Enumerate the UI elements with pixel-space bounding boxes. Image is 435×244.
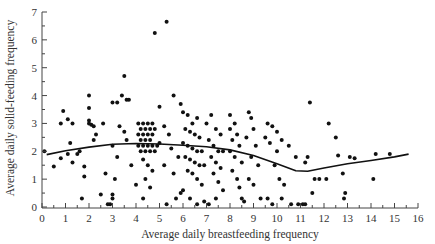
data-point (230, 138, 234, 142)
data-point (136, 121, 140, 125)
data-point (141, 197, 145, 201)
data-point (195, 116, 199, 120)
y-axis-ticks: 01234567 (32, 6, 48, 213)
data-point (270, 124, 274, 128)
data-point (118, 124, 122, 128)
data-point (198, 163, 202, 167)
x-tick-label: 7 (204, 212, 210, 224)
data-point (317, 177, 321, 181)
data-point (353, 156, 357, 160)
data-point (254, 144, 258, 148)
data-point (143, 127, 147, 131)
data-point (259, 197, 263, 201)
data-point (275, 130, 279, 134)
data-point (153, 149, 157, 153)
y-tick-label: 7 (32, 6, 38, 18)
data-point (240, 160, 244, 164)
data-point (66, 117, 70, 121)
data-point (80, 197, 84, 201)
data-point (68, 141, 72, 145)
data-point (148, 127, 152, 131)
data-point (148, 186, 152, 190)
data-point (165, 202, 169, 206)
x-tick-label: 4 (133, 212, 139, 224)
plot-area (42, 20, 408, 206)
data-point (101, 121, 105, 125)
data-point (270, 202, 274, 206)
data-point (188, 158, 192, 162)
data-point (280, 197, 284, 201)
data-point (190, 172, 194, 176)
data-point (342, 197, 346, 201)
data-point (129, 163, 133, 167)
data-point (249, 116, 253, 120)
data-point (230, 169, 234, 173)
x-axis-ticks: 012345678910111213141516 (39, 203, 424, 224)
data-point (348, 155, 352, 159)
data-point (308, 101, 312, 105)
data-point (371, 177, 375, 181)
data-point (306, 155, 310, 159)
data-point (82, 174, 86, 178)
data-point (198, 135, 202, 139)
data-point (66, 152, 70, 156)
data-point (247, 177, 251, 181)
data-point (61, 109, 65, 113)
data-point (266, 121, 270, 125)
data-point (115, 101, 119, 105)
data-point (202, 163, 206, 167)
data-point (214, 197, 218, 201)
data-point (111, 197, 115, 201)
data-point (324, 177, 328, 181)
data-point (162, 124, 166, 128)
data-point (242, 199, 246, 203)
data-point (122, 130, 126, 134)
data-point (111, 193, 115, 197)
data-point (141, 133, 145, 137)
data-point (205, 121, 209, 125)
data-point (209, 155, 213, 159)
data-point (99, 193, 103, 197)
data-point (268, 141, 272, 145)
data-point (233, 155, 237, 159)
data-point (374, 152, 378, 156)
data-point (153, 127, 157, 131)
data-point (111, 101, 115, 105)
x-tick-label: 16 (413, 212, 425, 224)
data-point (94, 133, 98, 137)
data-point (92, 138, 96, 142)
data-point (294, 155, 298, 159)
data-point (59, 156, 63, 160)
data-point (247, 110, 251, 114)
data-point (235, 177, 239, 181)
data-point (127, 98, 131, 102)
data-point (104, 172, 108, 176)
data-point (174, 197, 178, 201)
y-tick-label: 0 (32, 201, 38, 213)
data-point (143, 177, 147, 181)
y-tick-label: 2 (32, 145, 38, 157)
data-point (158, 105, 162, 109)
data-point (162, 163, 166, 167)
data-point (266, 197, 270, 201)
data-point (153, 31, 157, 35)
x-tick-label: 9 (251, 212, 257, 224)
x-axis-title: Average daily breastfeeding frequency (141, 228, 319, 241)
y-axis-title: Average daily solid-feeding frequency (4, 20, 17, 197)
data-point (176, 155, 180, 159)
data-point (301, 202, 305, 206)
data-point (181, 110, 185, 114)
data-point (195, 149, 199, 153)
data-point (150, 133, 154, 137)
scatter-chart: 01234567 012345678910111213141516 Averag… (0, 0, 435, 244)
data-point (59, 121, 63, 125)
data-point (228, 113, 232, 117)
data-point (139, 138, 143, 142)
y-tick-label: 6 (32, 34, 38, 46)
data-point (388, 152, 392, 156)
data-point (143, 138, 147, 142)
data-point (139, 149, 143, 153)
data-point (327, 121, 331, 125)
data-point (252, 127, 256, 131)
data-point (141, 121, 145, 125)
